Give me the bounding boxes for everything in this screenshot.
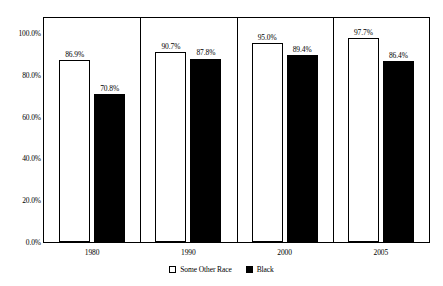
legend-label: Black (257, 265, 274, 274)
legend-item[interactable]: Some Other Race (169, 265, 231, 274)
bar-value-label: 89.4% (281, 46, 324, 54)
bar-2000-some-other-race (252, 43, 283, 242)
y-axis-tick-label: 0.0% (1, 239, 41, 247)
legend-swatch-icon (246, 266, 253, 273)
bar-1980-some-other-race (59, 60, 90, 242)
bar-2005-black (383, 61, 414, 242)
x-axis-tick-label: 1990 (140, 248, 236, 257)
legend-label: Some Other Race (180, 265, 231, 274)
y-axis: 100.0%80.0%60.0%40.0%20.0%0.0% (0, 0, 41, 286)
y-axis-tick-label: 40.0% (1, 155, 41, 163)
bar-value-label: 86.9% (53, 51, 96, 59)
y-axis-tick-label: 20.0% (1, 197, 41, 205)
chart-legend: Some Other RaceBlack (0, 265, 443, 274)
bar-1980-black (94, 94, 125, 242)
x-axis-tick-label: 2005 (333, 248, 429, 257)
y-axis-tick-label: 80.0% (1, 72, 41, 80)
legend-swatch-icon (169, 266, 176, 273)
bar-value-label: 97.7% (342, 29, 385, 37)
x-axis-tick-label: 2000 (237, 248, 333, 257)
bar-value-label: 87.8% (184, 49, 227, 57)
plot-area (44, 18, 429, 242)
bar-1990-some-other-race (155, 52, 186, 242)
bar-chart: 100.0%80.0%60.0%40.0%20.0%0.0% Some Othe… (0, 0, 443, 286)
bar-2005-some-other-race (348, 38, 379, 242)
category-separator (237, 18, 238, 242)
bar-value-label: 95.0% (246, 34, 289, 42)
bar-1990-black (190, 59, 221, 243)
legend-item[interactable]: Black (246, 265, 274, 274)
y-axis-tick-label: 100.0% (1, 30, 41, 38)
bar-value-label: 70.8% (88, 85, 131, 93)
category-separator (333, 18, 334, 242)
category-separator (140, 18, 141, 242)
bar-value-label: 86.4% (377, 52, 420, 60)
bar-2000-black (287, 55, 318, 242)
plot-frame (43, 17, 430, 243)
x-axis-tick-label: 1980 (44, 248, 140, 257)
y-axis-tick-label: 60.0% (1, 114, 41, 122)
